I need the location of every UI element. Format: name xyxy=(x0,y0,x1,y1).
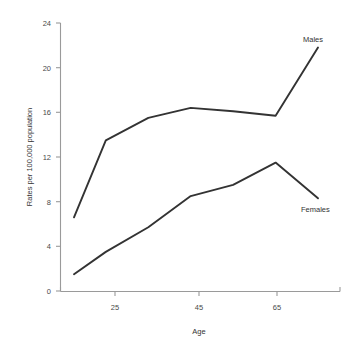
y-tick-label-12: 12 xyxy=(43,153,51,162)
y-tick-label-16: 16 xyxy=(43,108,51,117)
x-tick-label-25: 25 xyxy=(111,303,119,312)
line-chart: 24 20 16 12 8 4 0 25 45 65 Age Rates per… xyxy=(0,0,363,351)
y-tick-label-20: 20 xyxy=(43,64,51,73)
series-label-males: Males xyxy=(303,35,323,44)
x-tick-label-65: 65 xyxy=(273,303,281,312)
y-tick-label-0: 0 xyxy=(47,287,51,296)
y-axis-tick-labels: 24 20 16 12 8 4 0 xyxy=(43,19,51,296)
y-tick-label-24: 24 xyxy=(43,19,51,28)
y-axis-ticks xyxy=(56,23,61,291)
series-line-males xyxy=(74,48,318,218)
x-axis-title: Age xyxy=(192,327,205,336)
y-axis-title: Rates per 100,000 population xyxy=(25,108,34,206)
y-tick-label-4: 4 xyxy=(47,242,51,251)
series-label-females: Females xyxy=(301,205,330,214)
series-line-females xyxy=(74,163,318,275)
chart-canvas: 24 20 16 12 8 4 0 25 45 65 Age Rates per… xyxy=(0,0,363,351)
x-axis-tick-labels: 25 45 65 xyxy=(111,303,281,312)
y-tick-label-8: 8 xyxy=(47,198,51,207)
x-tick-label-45: 45 xyxy=(195,303,203,312)
